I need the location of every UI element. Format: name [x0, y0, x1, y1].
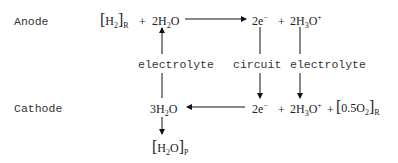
reaction-arrows [0, 0, 398, 163]
